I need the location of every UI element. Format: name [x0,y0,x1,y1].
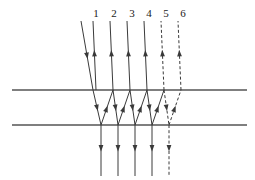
reflected-ray-arrow-4 [143,50,148,57]
internal-ray-arrow-down-3 [130,104,135,111]
transmitted-ray-arrow-1 [99,145,104,152]
incident-ray-arrow [84,52,89,59]
ray-arrowheads [84,50,182,152]
internal-ray-arrow-up-4 [154,106,159,113]
reflected-ray-arrow-5 [160,50,165,57]
internal-ray-arrow-up-2 [120,106,125,113]
ray-label-3: 3 [129,7,135,19]
internal-ray-arrow-up-1 [103,106,108,113]
reflected-ray-arrow-2 [109,50,114,57]
ray-paths [81,21,181,176]
transmitted-ray-arrow-2 [116,145,121,152]
reflected-ray-arrow-3 [126,50,131,57]
plate-surfaces [12,90,247,125]
internal-ray-arrow-up-5 [171,106,176,113]
ray-label-2: 2 [111,7,117,19]
transmitted-ray-arrow-4 [150,145,155,152]
internal-ray-arrow-down-4 [147,104,152,111]
reflected-ray-arrow-6 [177,50,182,57]
ray-label-1: 1 [93,7,99,19]
ray-labels: 123456 [93,7,186,19]
internal-ray-arrow-up-3 [137,106,142,113]
ray-diagram-figure: 123456 [0,0,255,180]
ray-label-5: 5 [163,7,169,19]
ray-label-6: 6 [180,7,186,19]
transmitted-ray-arrow-3 [133,145,138,152]
internal-ray-arrow-down-5 [164,104,169,111]
transmitted-ray-arrow-5 [167,145,172,152]
ray-diagram-canvas: 123456 [0,0,255,180]
internal-ray-arrow-down-2 [113,104,118,111]
reflected-ray-arrow-1 [92,50,97,57]
ray-label-4: 4 [146,7,152,19]
